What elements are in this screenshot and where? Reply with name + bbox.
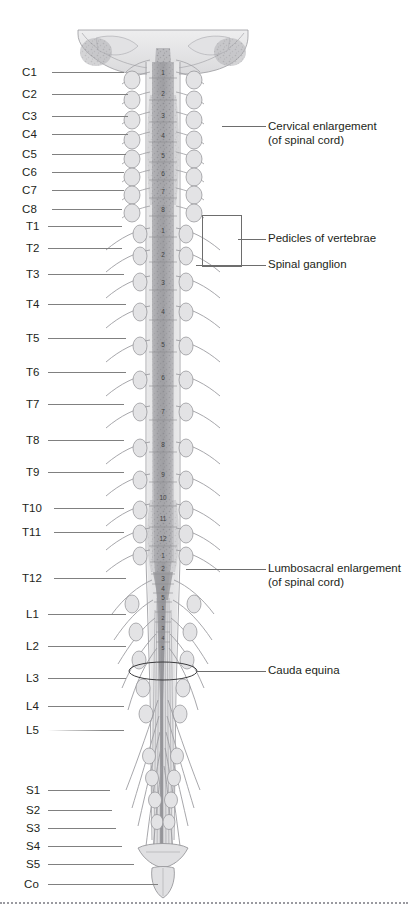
- segment-leader-t6: [48, 372, 126, 373]
- svg-text:3: 3: [161, 112, 165, 119]
- segment-leader-c7: [52, 190, 124, 191]
- segment-leader-s1: [48, 790, 110, 791]
- segment-label-t5: T5: [26, 332, 40, 344]
- callout-spinal-ganglion: Spinal ganglion: [268, 258, 347, 272]
- segment-label-c6: C6: [22, 166, 37, 178]
- callout-cervical-enlargement-line1: Cervical enlargement: [268, 120, 377, 134]
- svg-text:5: 5: [161, 152, 165, 159]
- callout-leader-spinal-ganglion: [196, 265, 266, 266]
- svg-text:5: 5: [161, 341, 165, 348]
- segment-label-t3: T3: [26, 268, 40, 280]
- callout-leader-cervical-enlargement: [222, 126, 266, 127]
- segment-label-t1: T1: [26, 220, 40, 232]
- callout-pedicles-of-vertebrae: Pedicles of vertebrae: [268, 232, 376, 246]
- svg-text:2: 2: [161, 90, 165, 97]
- segment-leader-t9: [48, 472, 124, 473]
- svg-text:12: 12: [159, 535, 167, 542]
- segment-leader-l3: [48, 678, 126, 679]
- callout-cauda-equina: Cauda equina: [268, 664, 340, 678]
- segment-leader-t8: [48, 440, 124, 441]
- svg-text:11: 11: [160, 515, 167, 522]
- segment-leader-c2: [52, 94, 128, 95]
- segment-leader-t3: [48, 274, 124, 275]
- svg-text:1: 1: [161, 552, 165, 559]
- segment-label-t4: T4: [26, 298, 40, 310]
- svg-text:8: 8: [161, 441, 165, 448]
- svg-text:3: 3: [161, 575, 165, 582]
- sacrum-coccyx-group: [138, 844, 188, 899]
- svg-text:9: 9: [161, 471, 165, 478]
- svg-text:7: 7: [161, 188, 165, 195]
- callout-leader-pedicles-of-vertebrae: [238, 239, 266, 240]
- segment-label-t12: T12: [22, 572, 42, 584]
- segment-label-co: Co: [24, 878, 39, 890]
- svg-text:5: 5: [161, 594, 165, 601]
- svg-text:10: 10: [159, 494, 167, 501]
- segment-leader-s4: [48, 846, 122, 847]
- svg-text:2: 2: [162, 615, 165, 621]
- callout-cauda-equina-line1: Cauda equina: [268, 664, 340, 678]
- callout-lumbosacral-enlargement: Lumbosacral enlargement (of spinal cord): [268, 562, 401, 589]
- segment-leader-t12: [54, 578, 126, 579]
- segment-label-t9: T9: [26, 466, 40, 478]
- segment-label-s1: S1: [26, 784, 40, 796]
- segment-label-s3: S3: [26, 822, 40, 834]
- svg-text:8: 8: [161, 206, 165, 213]
- segment-label-c4: C4: [22, 128, 37, 140]
- callout-lumbosacral-enlargement-line2: (of spinal cord): [268, 576, 401, 590]
- callout-cervical-enlargement: Cervical enlargement (of spinal cord): [268, 120, 377, 147]
- svg-text:6: 6: [161, 374, 165, 381]
- pedicles-bracket-box: [202, 215, 242, 267]
- segment-label-c8: C8: [22, 203, 37, 215]
- segment-leader-t11: [54, 532, 124, 533]
- segment-label-l3: L3: [26, 672, 39, 684]
- callout-cervical-enlargement-line2: (of spinal cord): [268, 134, 377, 148]
- callout-lumbosacral-enlargement-line1: Lumbosacral enlargement: [268, 562, 401, 576]
- segment-leader-l2: [48, 646, 126, 647]
- svg-text:7: 7: [161, 408, 165, 415]
- segment-label-t6: T6: [26, 366, 40, 378]
- svg-text:1: 1: [162, 605, 165, 611]
- segment-leader-t5: [48, 338, 126, 339]
- callout-pedicles-of-vertebrae-line1: Pedicles of vertebrae: [268, 232, 376, 246]
- segment-leader-s2: [48, 810, 112, 811]
- segment-label-t7: T7: [26, 398, 40, 410]
- svg-text:4: 4: [161, 585, 165, 592]
- svg-text:6: 6: [161, 170, 165, 177]
- segment-label-l5: L5: [26, 724, 39, 736]
- segment-leader-l5: [48, 730, 124, 731]
- segment-label-l4: L4: [26, 700, 39, 712]
- segment-label-t11: T11: [22, 526, 41, 538]
- segment-leader-c8: [52, 209, 122, 210]
- bottom-dotted-rule: [0, 902, 408, 904]
- svg-text:1: 1: [161, 69, 165, 76]
- callout-leader-lumbosacral-enlargement: [186, 569, 266, 570]
- segment-label-s5: S5: [26, 858, 40, 870]
- segment-leader-l1: [48, 614, 126, 615]
- segment-leader-t2: [48, 248, 122, 249]
- svg-text:4: 4: [162, 635, 165, 641]
- segment-leader-t10: [54, 508, 124, 509]
- segment-leader-c1: [52, 72, 124, 73]
- segment-label-l2: L2: [26, 640, 39, 652]
- svg-text:1: 1: [161, 227, 165, 234]
- svg-text:3: 3: [162, 625, 165, 631]
- callout-spinal-ganglion-line1: Spinal ganglion: [268, 258, 347, 272]
- svg-text:2: 2: [161, 565, 165, 572]
- segment-label-t10: T10: [22, 502, 42, 514]
- segment-leader-c6: [52, 172, 124, 173]
- segment-label-l1: L1: [26, 608, 39, 620]
- segment-leader-s5: [48, 864, 134, 865]
- callout-leader-cauda-equina: [196, 671, 266, 672]
- segment-leader-t4: [48, 304, 126, 305]
- segment-label-c2: C2: [22, 88, 37, 100]
- segment-leader-t7: [48, 404, 124, 405]
- segment-label-c7: C7: [22, 184, 37, 196]
- segment-label-t2: T2: [26, 242, 40, 254]
- segment-label-s4: S4: [26, 840, 40, 852]
- svg-text:5: 5: [162, 645, 165, 651]
- segment-label-c1: C1: [22, 66, 37, 78]
- svg-text:2: 2: [161, 251, 165, 258]
- segment-leader-c4: [52, 134, 128, 135]
- svg-text:4: 4: [161, 132, 165, 139]
